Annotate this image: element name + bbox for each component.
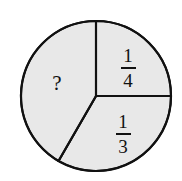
pie-chart-graphic [0, 0, 182, 181]
slice-label-one-third: 1 3 [110, 112, 136, 156]
fraction-bar [121, 67, 136, 69]
fraction-denominator: 3 [116, 136, 130, 156]
fraction-bar [116, 133, 131, 135]
fraction-denominator: 4 [121, 70, 135, 90]
fraction-numerator: 1 [116, 112, 130, 132]
slice-label-unknown-question-mark: ? [50, 73, 64, 97]
slice-label-one-quarter: 1 4 [115, 46, 141, 90]
fraction-numerator: 1 [121, 46, 135, 66]
pie-chart-figure: 1 4 1 3 ? [0, 0, 182, 181]
